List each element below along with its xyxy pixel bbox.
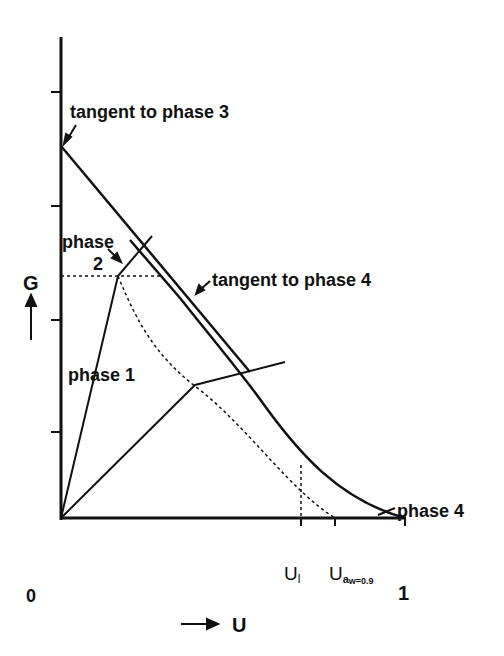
- tangent-phase3-line: [61, 146, 250, 372]
- label-phase2-line2: 2: [93, 254, 103, 274]
- dotted-lines: [61, 276, 335, 518]
- label-tangent-phase3: tangent to phase 3: [70, 102, 229, 122]
- dotted-curve: [118, 276, 335, 518]
- label-ul: Ul: [284, 563, 300, 586]
- label-phase4: phase 4: [397, 501, 464, 521]
- gibbs-energy-diagram: tangent to phase 3 phase 2 tangent to ph…: [0, 0, 504, 656]
- phase-lines: [61, 146, 405, 518]
- label-uaw: Uaw=0.9: [329, 563, 374, 586]
- label-phase2-line1: phase: [62, 232, 114, 252]
- origin-label: 0: [26, 586, 36, 606]
- label-tangent-phase4: tangent to phase 4: [212, 270, 371, 290]
- phase3-line: [61, 362, 285, 518]
- x-axis-label: U: [232, 614, 246, 636]
- label-phase1: phase 1: [68, 365, 135, 385]
- g-up-arrow-head: [26, 295, 36, 306]
- y-axis-label: G: [23, 272, 39, 294]
- phase2-line: [118, 236, 152, 276]
- phase1-line: [61, 276, 118, 518]
- arrow-tangent3-head: [64, 134, 71, 144]
- u-right-arrow-head: [207, 619, 218, 629]
- x-end-label: 1: [398, 582, 409, 604]
